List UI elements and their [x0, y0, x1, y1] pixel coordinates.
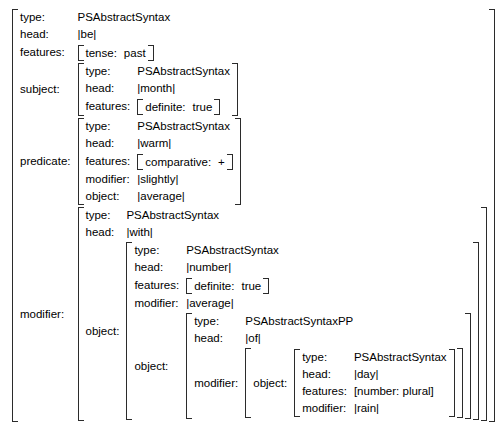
bracket-left-predicate	[78, 118, 84, 205]
bracket-left-subject-features	[137, 99, 143, 115]
avm-day-matrix: type: PSAbstractSyntax	[294, 349, 454, 417]
bracket-right-modifier-object	[473, 242, 479, 420]
row-subject: subject: type: PSAbstractSyntax head: |m…	[20, 62, 487, 117]
value-subject-definite: true	[193, 99, 213, 115]
row-predicate-head: head: |warm|	[86, 135, 233, 152]
row-pp-head: head: |of|	[194, 330, 462, 347]
row-mo-modifier: modifier: |average|	[134, 295, 470, 312]
row-subject-features: features: definite: true	[86, 97, 230, 116]
value-predicate-modifier: |slightly|	[137, 171, 233, 188]
value-pp-modifier: object:	[245, 347, 462, 419]
attr-pp-modifier: modifier:	[194, 347, 245, 419]
row-mo-definite: definite: true	[194, 278, 261, 294]
attr-tense: tense:	[86, 45, 124, 61]
avm-mo-features-rows: definite: true	[194, 278, 261, 294]
bracket-right-features	[148, 45, 154, 61]
avm-pp-rows: type: PSAbstractSyntaxPP head: |of|	[194, 313, 462, 419]
row-mo-type: type: PSAbstractSyntax	[134, 242, 470, 259]
value-day-modifier: |rain|	[354, 400, 447, 417]
value-pp-mod-object: type: PSAbstractSyntax	[294, 348, 454, 418]
attr-subject-type: type:	[86, 63, 138, 80]
attr-modifier-object: object:	[86, 241, 127, 421]
value-modifier-head: |with|	[126, 224, 478, 241]
avm-subject-features-matrix: definite: true	[137, 99, 220, 115]
attr-pp-head: head:	[194, 330, 245, 347]
bracket-right-root	[489, 9, 495, 422]
value-mo-type: PSAbstractSyntax	[186, 242, 470, 259]
row-subject-head: head: |month|	[86, 80, 230, 97]
row-day-features: features: [number: plural]	[302, 383, 446, 400]
attr-modifier: modifier:	[20, 206, 78, 422]
attr-predicate-type: type:	[86, 118, 138, 135]
bracket-left-root	[12, 9, 18, 422]
attr-pp-type: type:	[194, 313, 245, 330]
attr-subject-features: features:	[86, 97, 138, 116]
row-modifier-head: head: |with|	[86, 224, 479, 241]
row-pp-modifier: modifier:	[194, 347, 462, 419]
value-predicate-object: |average|	[137, 188, 233, 205]
avm-root-matrix: type: PSAbstractSyntax head: |be| featur…	[12, 9, 495, 422]
row-subject-type: type: PSAbstractSyntax	[86, 63, 230, 80]
value-pp-type: PSAbstractSyntaxPP	[245, 313, 462, 330]
bracket-right-day	[449, 349, 455, 417]
value-mo-head: |number|	[186, 259, 470, 276]
bracket-right-pp	[465, 313, 471, 419]
bracket-left-day	[294, 349, 300, 417]
attr-pp-mod-object: object:	[253, 348, 294, 418]
attr-predicate-head: head:	[86, 135, 138, 152]
avm-predicate-features-matrix: comparative: +	[137, 154, 233, 170]
avm-features-rows: tense: past	[86, 45, 146, 61]
avm-root-rows: type: PSAbstractSyntax head: |be| featur…	[20, 9, 487, 422]
bracket-right-modifier	[481, 207, 487, 421]
bracket-left-features	[78, 45, 84, 61]
value-mo-definite: true	[241, 278, 261, 294]
value-pp-head: |of|	[245, 330, 462, 347]
bracket-right-predicate	[235, 118, 241, 205]
avm-modifier-rows: type: PSAbstractSyntax head: |with| obje…	[86, 207, 479, 421]
attr-subject: subject:	[20, 62, 78, 117]
value-subject-features: definite: true	[137, 97, 230, 116]
attr-head: head:	[20, 26, 78, 43]
attr-day-type: type:	[302, 349, 354, 366]
row-comparative: comparative: +	[145, 154, 225, 170]
attr-modifier-type: type:	[86, 207, 127, 224]
avm-predicate-features-rows: comparative: +	[145, 154, 225, 170]
row-mo-object: object: type:	[134, 312, 470, 420]
avm-modifier-object-rows: type: PSAbstractSyntax head: |number|	[134, 242, 470, 420]
avm-pp-modifier-matrix: object:	[245, 348, 462, 418]
row-predicate: predicate: type: PSAbstractSyntax head: …	[20, 117, 487, 206]
bracket-left-modifier	[78, 207, 84, 421]
attr-modifier-head: head:	[86, 224, 127, 241]
value-type: PSAbstractSyntax	[78, 9, 487, 26]
avm-day-rows: type: PSAbstractSyntax	[302, 349, 446, 417]
bracket-right-predicate-features	[227, 154, 233, 170]
value-modifier-object: type: PSAbstractSyntax head: |number|	[126, 241, 478, 421]
value-mo-features: definite: true	[186, 276, 470, 295]
attr-comparative: comparative:	[145, 154, 218, 170]
value-tense: past	[124, 45, 146, 61]
avm-predicate-rows: type: PSAbstractSyntax head: |warm| feat…	[86, 118, 233, 205]
bracket-right-pp-modifier	[457, 348, 463, 418]
attr-predicate-object: object:	[86, 188, 138, 205]
avm-pp-matrix: type: PSAbstractSyntaxPP head: |of|	[186, 313, 470, 419]
value-predicate-head: |warm|	[137, 135, 233, 152]
avm-modifier-object-matrix: type: PSAbstractSyntax head: |number|	[126, 242, 478, 420]
bracket-left-mo-features	[186, 278, 192, 294]
value-predicate-type: PSAbstractSyntax	[137, 118, 233, 135]
row-mo-head: head: |number|	[134, 259, 470, 276]
value-predicate: type: PSAbstractSyntax head: |warm| feat…	[78, 117, 487, 206]
value-head: |be|	[78, 26, 487, 43]
bracket-left-subject	[78, 63, 84, 116]
value-mo-object: type: PSAbstractSyntaxPP head: |of|	[186, 312, 470, 420]
avm-subject-matrix: type: PSAbstractSyntax head: |month| fea…	[78, 63, 238, 116]
avm-features-matrix: tense: past	[78, 45, 154, 61]
attr-mo-modifier: modifier:	[134, 295, 186, 312]
avm-subject-rows: type: PSAbstractSyntax head: |month| fea…	[86, 63, 230, 116]
attr-day-features: features:	[302, 383, 354, 400]
row-modifier-object: object: type: PSAbstractSyntax	[86, 241, 479, 421]
value-day-features: [number: plural]	[354, 383, 447, 400]
value-day-head: |day|	[354, 366, 447, 383]
attr-day-head: head:	[302, 366, 354, 383]
row-predicate-features: features: comparative: +	[86, 152, 233, 171]
